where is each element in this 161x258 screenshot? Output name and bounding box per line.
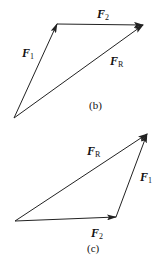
diagram-b — [14, 24, 143, 118]
label-f1-c: F1 — [140, 170, 152, 185]
label-fr-b: FR — [110, 54, 123, 69]
label-f2-b: F2 — [97, 7, 109, 22]
vector-f2-c — [15, 217, 116, 221]
vector-f2-b — [57, 24, 143, 25]
diagram-c — [15, 134, 147, 221]
caption-c: (c) — [87, 242, 99, 254]
force-triangle-diagrams — [0, 0, 161, 258]
label-fr-c: FR — [87, 144, 100, 159]
vector-fr-c — [15, 134, 147, 221]
caption-b: (b) — [89, 99, 102, 111]
label-f2-c: F2 — [91, 226, 103, 241]
label-f1-b: F1 — [22, 46, 34, 61]
vector-f1-b — [14, 24, 57, 118]
vector-fr-b — [14, 25, 143, 118]
